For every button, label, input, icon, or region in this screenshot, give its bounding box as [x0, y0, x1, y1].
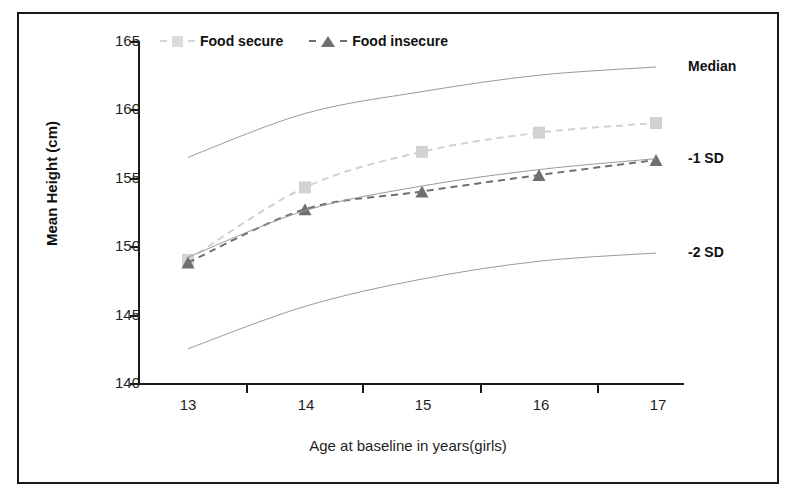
series-layer [0, 0, 797, 498]
triangle-marker-icon [321, 36, 335, 47]
data-point-marker[interactable] [416, 146, 428, 158]
chart-legend: Food secure Food insecure [160, 30, 448, 52]
series-line-1-sd [188, 159, 656, 257]
series-line-food-insecure [188, 160, 656, 263]
legend-label-food-secure: Food secure [200, 33, 283, 49]
data-point-marker[interactable] [533, 127, 545, 139]
data-point-marker[interactable] [650, 117, 662, 129]
legend-dash-icon [188, 40, 195, 42]
annotation-minus-1-sd: -1 SD [688, 150, 724, 166]
data-point-marker[interactable] [650, 154, 663, 166]
square-marker-icon [172, 36, 183, 47]
legend-dash-icon [160, 40, 167, 42]
annotation-minus-2-sd: -2 SD [688, 244, 724, 260]
legend-dash-icon [340, 40, 347, 42]
legend-label-food-insecure: Food insecure [352, 33, 448, 49]
data-point-marker[interactable] [299, 181, 311, 193]
series-line-2-sd [188, 253, 656, 349]
legend-dash-icon [309, 40, 316, 42]
legend-item-food-secure[interactable]: Food secure [160, 33, 283, 49]
chart-plot-area: 165 160 155 150 145 140 13 14 15 16 17 M… [0, 0, 797, 498]
annotation-median: Median [688, 58, 736, 74]
legend-item-food-insecure[interactable]: Food insecure [309, 33, 448, 49]
series-line-median [188, 67, 656, 157]
